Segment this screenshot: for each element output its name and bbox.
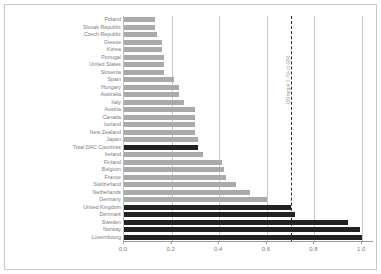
bar xyxy=(124,235,362,240)
bar-row: Sweden xyxy=(124,219,373,227)
bar-row: Korea xyxy=(124,46,373,54)
bar-category-label: Austria xyxy=(105,107,122,112)
bar-category-label: United States xyxy=(89,62,121,67)
bar xyxy=(124,175,226,180)
bar xyxy=(124,212,295,217)
bar xyxy=(124,152,203,157)
bar-category-label: Korea xyxy=(107,47,121,52)
x-tick-label: 0.4 xyxy=(214,246,222,252)
bar xyxy=(124,17,155,22)
bar xyxy=(124,62,164,67)
bar xyxy=(124,145,198,150)
bar-row: Switzerland xyxy=(124,181,373,189)
bar-row: Netherlands xyxy=(124,189,373,197)
x-tick-mark xyxy=(266,241,267,244)
bar-row: Norway xyxy=(124,226,373,234)
bar xyxy=(124,227,360,232)
bar-row: France xyxy=(124,174,373,182)
plot-area: PolandSlovak RepublicCzech RepublicGreec… xyxy=(123,16,373,241)
bar xyxy=(124,70,164,75)
bar-row: Slovak Republic xyxy=(124,24,373,32)
bar-category-label: Switzerland xyxy=(94,182,121,187)
bar-row: Poland xyxy=(124,16,373,24)
chart-page: PolandSlovak RepublicCzech RepublicGreec… xyxy=(0,0,381,274)
bar-category-label: Iceland xyxy=(104,122,121,127)
bar-category-label: Japan xyxy=(107,137,121,142)
bar-category-label: Germany xyxy=(99,197,121,202)
bar-category-label: Australia xyxy=(100,92,121,97)
bar xyxy=(124,107,195,112)
bar-row: Austria xyxy=(124,106,373,114)
bar-rows: PolandSlovak RepublicCzech RepublicGreec… xyxy=(124,16,373,241)
bar-row: Australia xyxy=(124,91,373,99)
bar-category-label: Hungary xyxy=(101,85,121,90)
bar xyxy=(124,205,291,210)
x-tick-label: 0.0 xyxy=(119,246,127,252)
bar-row: Portugal xyxy=(124,54,373,62)
bar-row: Japan xyxy=(124,136,373,144)
x-tick-label: 0.8 xyxy=(309,246,317,252)
x-tick-mark xyxy=(123,241,124,244)
x-tick-mark xyxy=(171,241,172,244)
bar xyxy=(124,130,195,135)
bar-row: Finland xyxy=(124,159,373,167)
bar-category-label: Poland xyxy=(105,17,122,22)
x-tick-label: 0.6 xyxy=(262,246,270,252)
bar-row: New Zealand xyxy=(124,129,373,137)
bar-category-label: Canada xyxy=(102,115,121,120)
bar-row: Luxembourg xyxy=(124,234,373,242)
x-tick-mark xyxy=(218,241,219,244)
bar xyxy=(124,92,179,97)
figure-frame: PolandSlovak RepublicCzech RepublicGreec… xyxy=(4,4,377,270)
bar xyxy=(124,40,162,45)
bar-category-label: Sweden xyxy=(102,220,121,225)
bar-category-label: Spain xyxy=(107,77,121,82)
un-target-label: UN target 0.7% of GNI xyxy=(286,56,291,104)
bar-category-label: Slovak Republic xyxy=(83,25,121,30)
bar xyxy=(124,122,195,127)
bar-category-label: Ireland xyxy=(105,152,121,157)
bar-category-label: Finland xyxy=(104,160,121,165)
x-tick-mark xyxy=(313,241,314,244)
bar xyxy=(124,197,267,202)
bar-row: Iceland xyxy=(124,121,373,129)
bar-row: Greece xyxy=(124,39,373,47)
bar xyxy=(124,220,348,225)
bar-row: Czech Republic xyxy=(124,31,373,39)
un-target-line xyxy=(291,16,292,241)
bar xyxy=(124,77,174,82)
bar xyxy=(124,167,224,172)
x-tick-mark xyxy=(361,241,362,244)
bar xyxy=(124,190,250,195)
bar-category-label: Belgium xyxy=(102,167,121,172)
bar-row: Germany xyxy=(124,196,373,204)
bar-row: Canada xyxy=(124,114,373,122)
bar-row: Italy xyxy=(124,99,373,107)
bar-row: Hungary xyxy=(124,84,373,92)
x-tick-label: 1.0 xyxy=(357,246,365,252)
bar-category-label: Portugal xyxy=(101,55,121,60)
bar-row: United States xyxy=(124,61,373,69)
bar-category-label: Greece xyxy=(104,40,121,45)
bar xyxy=(124,25,155,30)
bar xyxy=(124,137,198,142)
bar-category-label: Czech Republic xyxy=(84,32,121,37)
bar-row: Spain xyxy=(124,76,373,84)
bar xyxy=(124,115,195,120)
bar xyxy=(124,32,157,37)
bar-category-label: United Kingdom xyxy=(83,205,121,210)
bar xyxy=(124,182,236,187)
bar-category-label: New Zealand xyxy=(90,130,121,135)
bar-category-label: Netherlands xyxy=(92,190,121,195)
bar xyxy=(124,47,162,52)
x-axis xyxy=(123,241,373,242)
bar-category-label: Denmark xyxy=(100,212,122,217)
bar-row: Slovenia xyxy=(124,69,373,77)
bar xyxy=(124,55,164,60)
bar xyxy=(124,85,179,90)
bar-row: Denmark xyxy=(124,211,373,219)
bar-category-label: Total DAC Countries xyxy=(73,145,121,150)
bar-category-label: Italy xyxy=(111,100,121,105)
bar-category-label: Norway xyxy=(103,227,121,232)
bar-row: United Kingdom xyxy=(124,204,373,212)
